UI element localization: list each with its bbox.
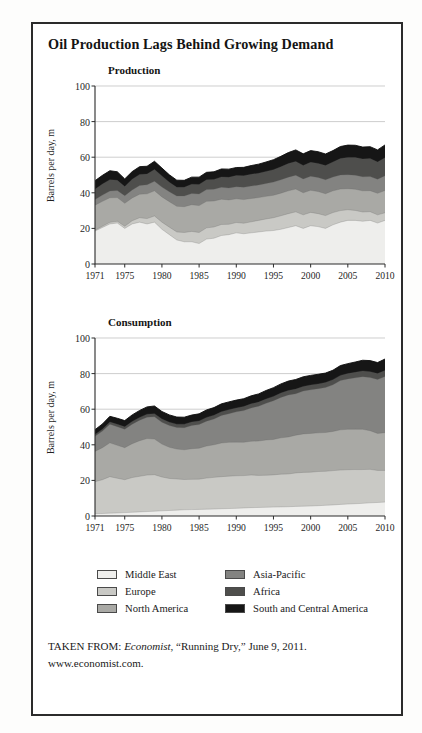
y-tick-label: 20	[80, 223, 90, 234]
source-prefix: TAKEN FROM:	[48, 640, 124, 652]
x-tick-label: 1985	[190, 522, 209, 533]
x-tick-label: 2000	[301, 270, 320, 281]
legend-label: North America	[125, 603, 188, 614]
chart-legend: Middle EastEuropeNorth America Asia-Paci…	[33, 566, 405, 628]
legend-swatch	[225, 570, 245, 579]
legend-label: South and Central America	[253, 603, 368, 614]
x-tick-label: 1971	[85, 270, 104, 281]
x-tick-label: 1985	[190, 270, 209, 281]
stacked-area-svg	[95, 338, 385, 516]
chart-title-production: Production	[108, 64, 160, 76]
y-tick-label: 0	[85, 511, 90, 522]
y-tick-label: 20	[80, 475, 90, 486]
x-tick-label: 2000	[301, 522, 320, 533]
x-tick-label: 1980	[152, 270, 171, 281]
legend-swatch	[97, 604, 117, 613]
legend-swatch	[97, 587, 117, 596]
y-tick-label: 40	[80, 439, 90, 450]
y-tick-label: 80	[80, 368, 90, 379]
y-tick-label: 60	[80, 404, 90, 415]
plot-area-consumption: 0204060801001971197519801985199019952000…	[95, 338, 385, 516]
x-tick-label: 1975	[115, 270, 134, 281]
source-rest: , “Running Dry,” June 9, 2011.	[171, 640, 307, 652]
legend-item: North America	[97, 600, 188, 617]
y-tick-label: 100	[75, 81, 90, 92]
x-tick-label: 1971	[85, 522, 104, 533]
legend-label: Europe	[125, 586, 156, 597]
stacked-area-svg	[95, 86, 385, 264]
x-tick-label: 1995	[264, 522, 283, 533]
legend-label: Africa	[253, 586, 280, 597]
source-note: TAKEN FROM: Economist, “Running Dry,” Ju…	[48, 638, 393, 672]
source-url: www.economist.com.	[48, 655, 393, 672]
legend-item: Africa	[225, 583, 368, 600]
chart-panel-consumption: Consumption Barrels per day, m 020406080…	[33, 316, 405, 564]
y-tick-label: 100	[75, 333, 90, 344]
x-tick-label: 1975	[115, 522, 134, 533]
y-tick-label: 0	[85, 259, 90, 270]
legend-item: Middle East	[97, 566, 188, 583]
figure-title: Oil Production Lags Behind Growing Deman…	[48, 36, 333, 53]
legend-label: Asia-Pacific	[253, 569, 305, 580]
legend-item: South and Central America	[225, 600, 368, 617]
x-tick-label: 2010	[375, 522, 394, 533]
legend-item: Asia-Pacific	[225, 566, 368, 583]
y-tick-label: 80	[80, 116, 90, 127]
x-tick-label: 1990	[227, 522, 246, 533]
legend-column-left: Middle EastEuropeNorth America	[97, 566, 188, 617]
x-tick-label: 1995	[264, 270, 283, 281]
legend-column-right: Asia-PacificAfricaSouth and Central Amer…	[225, 566, 368, 617]
legend-swatch	[225, 604, 245, 613]
x-tick-label: 2010	[375, 270, 394, 281]
x-tick-label: 2005	[338, 270, 357, 281]
y-tick-label: 40	[80, 187, 90, 198]
y-tick-label: 60	[80, 152, 90, 163]
x-tick-label: 1990	[227, 270, 246, 281]
source-publication: Economist	[124, 640, 170, 652]
legend-swatch	[225, 587, 245, 596]
y-axis-label-consumption: Barrels per day, m	[45, 363, 56, 473]
x-tick-label: 1980	[152, 522, 171, 533]
legend-swatch	[97, 570, 117, 579]
legend-label: Middle East	[125, 569, 177, 580]
chart-panel-production: Production Barrels per day, m 0204060801…	[33, 64, 405, 312]
plot-area-production: 0204060801001971197519801985199019952000…	[95, 86, 385, 264]
chart-title-consumption: Consumption	[108, 316, 172, 328]
legend-item: Europe	[97, 583, 188, 600]
y-axis-label-production: Barrels per day, m	[45, 111, 56, 221]
figure-container: Oil Production Lags Behind Growing Deman…	[31, 22, 403, 716]
x-tick-label: 2005	[338, 522, 357, 533]
